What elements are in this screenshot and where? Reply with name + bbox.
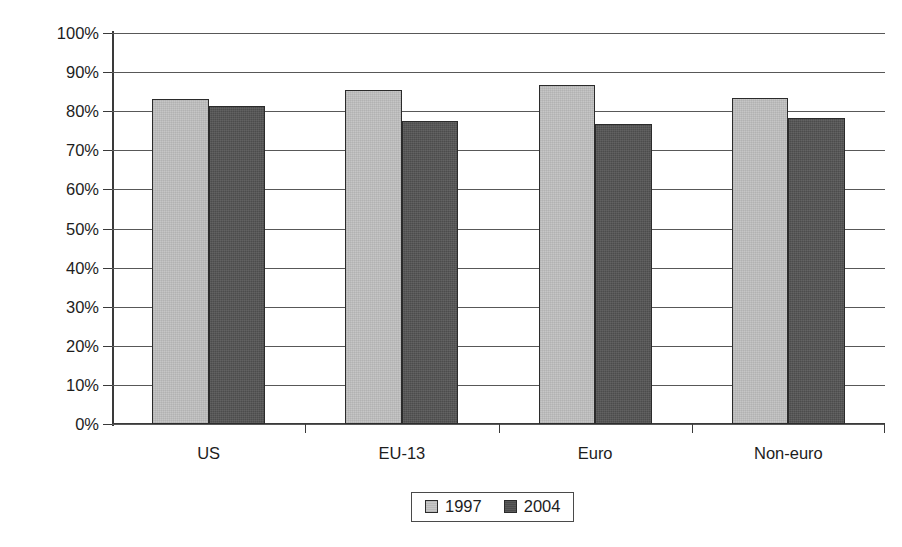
y-axis-tick-label: 40%: [66, 258, 99, 277]
y-axis-tick-label: 70%: [66, 141, 99, 160]
y-tick-mark: [103, 150, 112, 151]
x-axis-label-eu-13: EU-13: [378, 444, 425, 463]
bar-chart-figure: Equity home bias in % 0%10%20%30%40%50%6…: [0, 0, 902, 547]
bar-eu-13-2004: [402, 121, 459, 424]
y-axis-tick-label: 90%: [66, 63, 99, 82]
y-axis-tick-label: 20%: [66, 336, 99, 355]
x-axis-category-separator: [305, 424, 306, 433]
bar-non-euro-1997: [732, 98, 789, 424]
y-tick-mark: [103, 385, 112, 386]
legend-item-2004: 2004: [504, 497, 561, 516]
x-axis-label-us: US: [197, 444, 220, 463]
bar-non-euro-2004: [788, 118, 845, 424]
y-tick-mark: [103, 268, 112, 269]
y-tick-mark: [103, 307, 112, 308]
y-axis-tick-label: 30%: [66, 297, 99, 316]
legend-label-2004: 2004: [524, 497, 561, 516]
legend-swatch-1997: [425, 500, 438, 513]
legend: 19972004: [411, 492, 574, 522]
y-tick-mark: [103, 189, 112, 190]
y-tick-mark: [103, 111, 112, 112]
legend-item-1997: 1997: [425, 497, 482, 516]
y-tick-mark: [103, 346, 112, 347]
x-axis-category-separator: [499, 424, 500, 433]
bar-us-1997: [152, 99, 209, 424]
legend-swatch-2004: [504, 500, 517, 513]
gridline: [112, 72, 885, 73]
bar-euro-1997: [539, 85, 596, 424]
y-axis-tick-label: 60%: [66, 180, 99, 199]
legend-label-1997: 1997: [445, 497, 482, 516]
x-axis-label-non-euro: Non-euro: [754, 444, 823, 463]
x-axis-category-separator: [692, 424, 693, 433]
y-tick-mark: [103, 229, 112, 230]
y-tick-mark: [103, 424, 112, 425]
y-axis-tick-label: 10%: [66, 375, 99, 394]
x-axis-label-euro: Euro: [578, 444, 613, 463]
gridline: [112, 33, 885, 34]
plot-area: 0%10%20%30%40%50%60%70%80%90%100%: [112, 33, 885, 424]
bar-eu-13-1997: [345, 90, 402, 424]
bar-us-2004: [209, 106, 266, 424]
y-axis-tick-label: 50%: [66, 219, 99, 238]
y-tick-mark: [103, 33, 112, 34]
y-axis-tick-label: 0%: [75, 415, 99, 434]
y-axis-tick-label: 100%: [57, 24, 99, 43]
y-tick-mark: [103, 72, 112, 73]
bar-euro-2004: [595, 124, 652, 424]
x-axis-category-separator: [884, 424, 885, 433]
y-axis-tick-label: 80%: [66, 102, 99, 121]
